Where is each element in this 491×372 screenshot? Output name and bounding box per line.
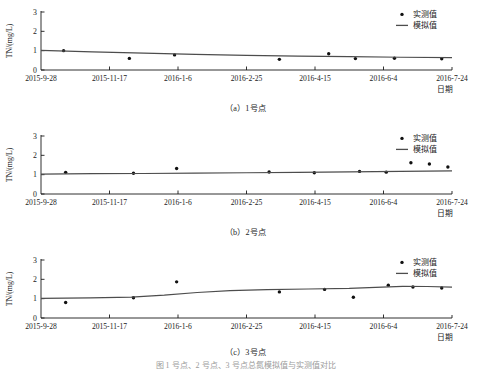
data-point-measured <box>352 296 355 299</box>
y-axis-label: TN/(mg/L) <box>5 271 14 306</box>
x-tick-label: 2016-4-15 <box>299 74 331 83</box>
x-tick-label: 2016-2-25 <box>231 322 263 331</box>
x-tick-label: 2016-2-25 <box>231 198 263 207</box>
x-axis-label: 日期 <box>437 333 453 342</box>
legend-label-simulated: 模拟值 <box>413 268 437 278</box>
x-tick-label: 2016-1-6 <box>164 74 192 83</box>
data-point-measured <box>175 167 178 170</box>
data-point-measured <box>327 52 330 55</box>
y-tick-label: 1 <box>33 170 37 179</box>
x-tick-label: 2016-2-25 <box>231 74 263 83</box>
legend-label-simulated: 模拟值 <box>413 144 437 154</box>
subcaption-c: （c）3号点 <box>0 345 491 357</box>
legend-marker-icon <box>400 13 403 16</box>
series-line-simulated <box>41 171 452 174</box>
x-tick-label: 2016-1-6 <box>164 322 192 331</box>
x-tick-label: 2015-11-17 <box>92 74 127 83</box>
x-tick-label: 2016-4-15 <box>299 198 331 207</box>
data-point-measured <box>446 165 449 168</box>
y-tick-label: 2 <box>33 275 37 284</box>
legend-label-measured: 实测值 <box>413 9 437 19</box>
figure-caption: 图 1 号点、2 号点、3 号点总氮模拟值与实测值对比 <box>0 359 491 370</box>
x-axis-label: 日期 <box>437 85 453 94</box>
chart-svg-c: 0123TN/(mg/L)2015-9-282015-11-172016-1-6… <box>0 248 491 352</box>
chart-panel-a: 0123TN/(mg/L)2015-9-282015-11-172016-1-6… <box>0 0 491 124</box>
legend-label-measured: 实测值 <box>413 133 437 143</box>
x-tick-label: 2015-9-28 <box>25 74 57 83</box>
chart-panel-c: 0123TN/(mg/L)2015-9-282015-11-172016-1-6… <box>0 248 491 372</box>
x-tick-label: 2015-11-17 <box>92 198 127 207</box>
chart-svg-b: 0123TN/(mg/L)2015-9-282015-11-172016-1-6… <box>0 124 491 228</box>
y-axis-label: TN/(mg/L) <box>5 147 14 182</box>
data-point-measured <box>64 301 67 304</box>
y-tick-label: 2 <box>33 27 37 36</box>
y-tick-label: 3 <box>33 8 37 17</box>
x-axis-label: 日期 <box>437 209 453 218</box>
y-tick-label: 1 <box>33 294 37 303</box>
figure-root: 0123TN/(mg/L)2015-9-282015-11-172016-1-6… <box>0 0 491 372</box>
legend-label-simulated: 模拟值 <box>413 20 437 30</box>
x-tick-label: 2016-4-15 <box>299 322 331 331</box>
x-tick-label: 2016-7-24 <box>436 322 468 331</box>
y-tick-label: 2 <box>33 151 37 160</box>
x-tick-label: 2016-1-6 <box>164 198 192 207</box>
data-point-measured <box>278 290 281 293</box>
data-point-measured <box>128 57 131 60</box>
data-point-measured <box>409 161 412 164</box>
x-tick-label: 2016-6-4 <box>370 198 398 207</box>
x-tick-label: 2016-6-4 <box>370 322 398 331</box>
y-tick-label: 1 <box>33 46 37 55</box>
subcaption-b: （b）2号点 <box>0 225 491 237</box>
y-tick-label: 3 <box>33 256 37 265</box>
data-point-measured <box>354 57 357 60</box>
legend-marker-icon <box>400 137 403 140</box>
chart-panel-b: 0123TN/(mg/L)2015-9-282015-11-172016-1-6… <box>0 124 491 248</box>
x-tick-label: 2015-11-17 <box>92 322 127 331</box>
series-line-simulated <box>41 50 452 57</box>
data-point-measured <box>278 58 281 61</box>
x-tick-label: 2016-7-24 <box>436 198 468 207</box>
x-tick-label: 2015-9-28 <box>25 198 57 207</box>
legend-marker-icon <box>400 261 403 264</box>
legend-label-measured: 实测值 <box>413 257 437 267</box>
y-axis-label: TN/(mg/L) <box>5 23 14 58</box>
y-tick-label: 3 <box>33 132 37 141</box>
x-tick-label: 2016-6-4 <box>370 74 398 83</box>
data-point-measured <box>428 162 431 165</box>
subcaption-a: （a）1号点 <box>0 101 491 113</box>
data-point-measured <box>175 280 178 283</box>
chart-svg-a: 0123TN/(mg/L)2015-9-282015-11-172016-1-6… <box>0 0 491 104</box>
x-tick-label: 2015-9-28 <box>25 322 57 331</box>
x-tick-label: 2016-7-24 <box>436 74 468 83</box>
series-line-simulated <box>41 286 452 298</box>
